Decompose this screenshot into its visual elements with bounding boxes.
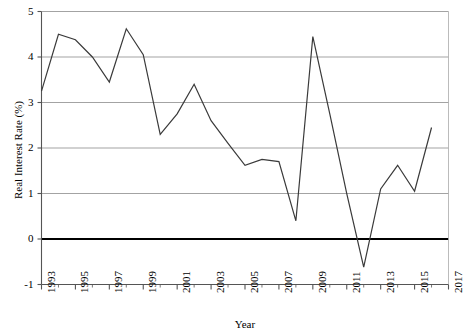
x-tick-label: 2015 — [419, 271, 430, 293]
x-tick-label: 2011 — [351, 271, 362, 293]
x-tick-label: 2003 — [215, 271, 226, 293]
x-tick-label: 2013 — [385, 271, 396, 293]
gridlines — [42, 12, 449, 194]
x-tick-label: 1997 — [113, 271, 124, 293]
y-tick-label: -1 — [14, 279, 34, 290]
x-tick-label: 2001 — [181, 271, 192, 293]
y-tick-label: 1 — [14, 188, 34, 199]
y-tick-label: 3 — [14, 97, 34, 108]
x-tick-label: 2007 — [283, 271, 294, 293]
chart-canvas — [0, 0, 467, 336]
x-axis-title: Year — [41, 318, 449, 330]
y-ticks — [38, 12, 42, 285]
y-tick-label: 2 — [14, 142, 34, 153]
y-tick-label: 0 — [14, 233, 34, 244]
real-interest-rate-chart: Real Interest Rate (%) Year -1012345 199… — [0, 0, 467, 336]
x-tick-label: 2017 — [453, 271, 464, 293]
x-tick-label: 2009 — [317, 271, 328, 293]
x-tick-label: 1995 — [79, 271, 90, 293]
y-tick-label: 5 — [14, 6, 34, 17]
x-tick-label: 1993 — [46, 271, 57, 293]
x-tick-label: 1999 — [147, 271, 158, 293]
y-tick-label: 4 — [14, 51, 34, 62]
x-tick-label: 2005 — [249, 271, 260, 293]
